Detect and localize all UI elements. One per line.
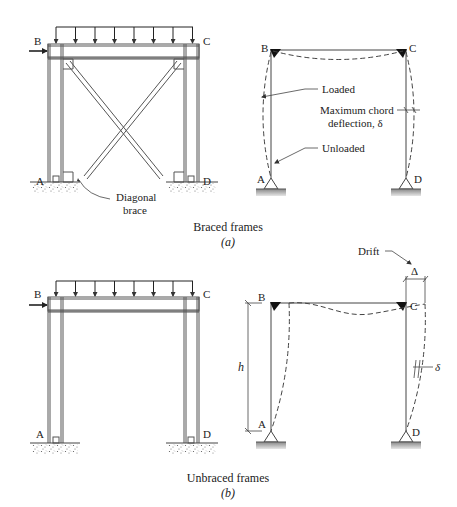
- braced-schematic: B C A D Loaded Maximum chord deflection,…: [256, 42, 422, 196]
- joint-label-b: B: [261, 42, 268, 54]
- caption-a-label: (a): [221, 235, 235, 249]
- chord-delta-symbol: δ: [435, 361, 441, 373]
- ground-icon: [30, 443, 218, 454]
- deflection-dimension: [397, 107, 420, 113]
- joint-label-c: C: [203, 288, 210, 300]
- joint-label-a: A: [36, 175, 44, 187]
- distributed-load-icon: [56, 281, 193, 296]
- joint-label-a: A: [258, 418, 266, 430]
- rigid-joint-c-icon: [396, 302, 407, 311]
- pin-support-icon: [264, 178, 413, 189]
- diagonal-brace-label-line1: Diagonal: [116, 191, 156, 203]
- joint-label-c: C: [410, 300, 417, 312]
- height-symbol: h: [238, 360, 244, 374]
- joint-label-d: D: [414, 173, 422, 185]
- caption-b-label: (b): [221, 486, 235, 500]
- max-chord-deflection-label: Maximum chord: [320, 104, 394, 116]
- drift-dimension: [403, 276, 428, 303]
- rigid-joint-b-icon: [270, 302, 281, 311]
- joint-label-c: C: [409, 42, 416, 54]
- unbraced-physical-frame: B C A D: [29, 281, 218, 454]
- joint-label-d: D: [203, 175, 211, 187]
- caption-unbraced-frames: Unbraced frames: [187, 471, 270, 485]
- joint-label-a: A: [257, 173, 265, 185]
- joint-label-d: D: [203, 428, 211, 440]
- distributed-load-icon: [56, 27, 193, 43]
- rigid-joint-c-icon: [396, 49, 407, 58]
- unloaded-label: Unloaded: [322, 142, 365, 154]
- braced-physical-frame: B C A D Diagonal brace: [29, 27, 218, 216]
- joint-label-a: A: [36, 428, 44, 440]
- joint-label-c: C: [203, 35, 210, 47]
- caption-braced-frames: Braced frames: [193, 220, 263, 234]
- joint-label-b: B: [34, 288, 41, 300]
- height-dimension: [245, 300, 262, 434]
- drift-delta-symbol: Δ: [411, 265, 418, 277]
- frames-diagram: B C A D Diagonal brace: [0, 0, 457, 507]
- diagonal-brace: [66, 61, 181, 179]
- joint-label-b: B: [34, 35, 41, 47]
- drift-label: Drift: [358, 245, 379, 257]
- drift-deflected-shape: [271, 303, 425, 431]
- diagonal-brace-label-line2: brace: [123, 204, 147, 216]
- max-chord-deflection-label-2: deflection, δ: [328, 117, 383, 129]
- loaded-label: Loaded: [322, 83, 355, 95]
- joint-label-d: D: [412, 426, 420, 438]
- rigid-joint-b-icon: [270, 49, 281, 58]
- joint-label-b: B: [258, 291, 265, 303]
- unbraced-schematic: h Drift Δ C B A D δ: [238, 245, 441, 449]
- pin-support-icon: [264, 431, 413, 442]
